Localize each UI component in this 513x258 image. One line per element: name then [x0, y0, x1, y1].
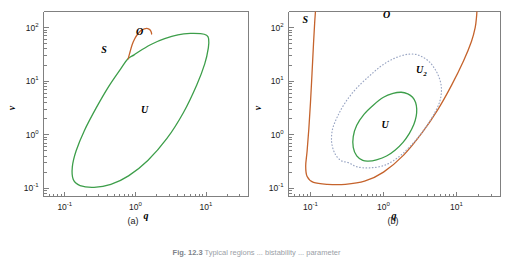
y-axis-title-b: v: [252, 105, 263, 110]
y-tick-label: 10-1: [24, 182, 39, 193]
region-label-s: S: [303, 14, 309, 25]
x-tick-label: 10-1: [303, 201, 318, 212]
region-label-u: U: [141, 104, 149, 115]
region-label-s: S: [101, 44, 107, 55]
region-label-o: O: [136, 26, 143, 37]
x-tick-label: 10-1: [57, 201, 72, 212]
panel-caption-a: (a): [118, 216, 148, 226]
y-tick-label: 102: [26, 22, 39, 33]
plot-panel-a: 10-110010110-1100101102 SOU q v: [0, 0, 256, 230]
axis-tick-labels-b: 10-110010110-1100101102: [269, 22, 464, 212]
y-tick-label: 100: [26, 129, 39, 140]
region-labels-a: SOU: [101, 26, 149, 114]
axis-tick-labels-a: 10-110010110-1100101102: [24, 22, 213, 212]
x-tick-label: 101: [450, 201, 463, 212]
y-tick-label: 100: [271, 129, 284, 140]
y-tick-label: 101: [26, 75, 39, 86]
region-labels-b: SOU2U: [303, 9, 428, 130]
y-tick-label: 101: [271, 75, 284, 86]
x-tick-label: 100: [377, 201, 390, 212]
x-tick-label: 101: [200, 201, 213, 212]
figure-caption-label: Fig. 12.3: [173, 248, 203, 257]
x-tick-label: 100: [129, 201, 142, 212]
curve-s-boundary-left: [306, 12, 477, 185]
region-label-u2: U2: [416, 64, 427, 78]
plot-frame-b: [289, 12, 501, 197]
y-tick-label: 10-1: [269, 182, 284, 193]
region-label-o: O: [383, 9, 390, 20]
y-tick-label: 102: [271, 22, 284, 33]
figure-caption-text: Typical regions ... bistability ... para…: [205, 248, 341, 257]
panel-caption-b: (b): [378, 216, 408, 226]
plot-svg-a: 10-110010110-1100101102 SOU q v: [0, 0, 256, 230]
region-label-u: U: [381, 119, 389, 130]
figure-caption: Fig. 12.3 Typical regions ... bistabilit…: [0, 247, 513, 258]
curves-b: [306, 12, 477, 185]
axis-ticks-b: [289, 12, 501, 197]
plot-svg-b: 10-110010110-1100101102 SOU2U q v: [250, 0, 513, 230]
figure-container: 10-110010110-1100101102 SOU q v 10-11001…: [0, 0, 513, 258]
y-axis-title-a: v: [6, 105, 17, 110]
plot-panel-b: 10-110010110-1100101102 SOU2U q v: [250, 0, 513, 230]
